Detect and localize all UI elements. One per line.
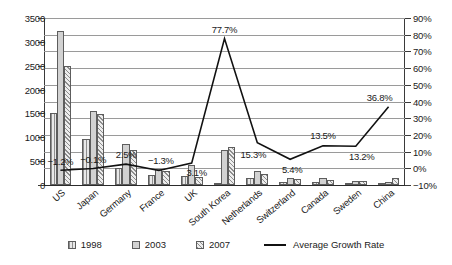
left-axis-tick-mark [38, 113, 44, 114]
bar-2003-france[interactable] [155, 169, 162, 185]
bar-2007-japan[interactable] [97, 114, 104, 185]
data-label-japan: −0.1% [80, 154, 106, 165]
bar-1998-germany[interactable] [115, 168, 122, 185]
data-label-canada: 13.5% [310, 129, 335, 140]
legend-label: Average Growth Rate [293, 239, 384, 250]
category-label-france: France [137, 187, 166, 214]
right-axis-tick-mark [405, 118, 411, 119]
right-axis-tick-label: −10% [413, 180, 437, 191]
right-axis-tick-mark [405, 152, 411, 153]
bar-group [241, 18, 274, 185]
left-axis-tick-mark [38, 137, 44, 138]
left-axis-tick-mark [38, 18, 44, 19]
data-label-sweden: 13.2% [349, 151, 374, 162]
legend: 199820032007Average Growth Rate [0, 239, 452, 250]
combo-chart: −1.2%−0.1%2.5%−1.3%3.1%77.7%15.3%5.4%13.… [0, 0, 452, 265]
category-label-uk: UK [182, 187, 199, 204]
category-label-us: US [51, 187, 68, 204]
right-axis-tick-mark [405, 35, 411, 36]
legend-item-2007[interactable]: 2007 [196, 239, 230, 250]
right-axis-tick-label: 60% [413, 63, 431, 74]
right-axis-tick-mark [405, 85, 411, 86]
legend-label: 1998 [81, 239, 102, 250]
right-axis-tick-mark [405, 168, 411, 169]
bar-2007-uk[interactable] [195, 177, 202, 185]
data-label-switzerland: 5.4% [282, 164, 302, 175]
category-axis: USJapanGermanyFranceUKSouth KoreaNetherl… [44, 185, 405, 237]
category-label-china: China [370, 187, 395, 211]
legend-swatch-2003 [132, 241, 140, 249]
right-axis-tick-label: 50% [413, 79, 431, 90]
bar-group [274, 18, 307, 185]
legend-item-1998[interactable]: 1998 [68, 239, 102, 250]
legend-line-marker [264, 244, 286, 246]
bar-group [208, 18, 241, 185]
category-label-germany: Germany [97, 187, 133, 220]
right-axis-tick-label: 40% [413, 96, 431, 107]
data-label-germany: 2.5% [116, 149, 136, 160]
legend-item-2003[interactable]: 2003 [132, 239, 166, 250]
bar-2007-france[interactable] [162, 171, 169, 185]
plot-area: −1.2%−0.1%2.5%−1.3%3.1%77.7%15.3%5.4%13.… [44, 18, 405, 185]
right-axis-tick-mark [405, 51, 411, 52]
data-label-us: −1.2% [48, 156, 74, 167]
legend-swatch-1998 [68, 241, 76, 249]
right-axis-tick-mark [405, 18, 411, 19]
left-axis-tick-mark [38, 66, 44, 67]
right-axis-tick-label: 30% [413, 113, 431, 124]
bar-group [175, 18, 208, 185]
data-label-france: −1.3% [148, 155, 174, 166]
left-axis-tick-mark [38, 161, 44, 162]
legend-swatch-2007 [196, 241, 204, 249]
bar-group [110, 18, 143, 185]
right-axis-tick-label: 80% [413, 29, 431, 40]
right-axis-tick-label: 90% [413, 13, 431, 24]
bar-2003-south-korea[interactable] [221, 150, 228, 185]
right-axis-tick-label: 10% [413, 146, 431, 157]
legend-label: 2003 [145, 239, 166, 250]
category-label-sweden: Sweden [330, 187, 362, 217]
bar-2003-switzerland[interactable] [287, 178, 294, 185]
right-axis-tick-label: 0% [413, 163, 426, 174]
bar-1998-us[interactable] [50, 113, 57, 185]
legend-label: 2007 [209, 239, 230, 250]
bar-2003-japan[interactable] [90, 111, 97, 185]
data-label-south-korea: 77.7% [212, 23, 237, 34]
right-axis-tick-mark [405, 68, 411, 69]
right-axis-tick-label: 20% [413, 129, 431, 140]
bar-2007-netherlands[interactable] [261, 174, 268, 185]
right-axis-tick-mark [405, 102, 411, 103]
category-label-canada: Canada [298, 187, 330, 216]
data-label-netherlands: 15.3% [241, 148, 266, 159]
left-axis-tick-mark [38, 42, 44, 43]
bar-2007-china[interactable] [392, 178, 399, 185]
bar-2007-south-korea[interactable] [228, 147, 235, 185]
legend-item-average-growth-rate[interactable]: Average Growth Rate [264, 239, 384, 250]
bar-2003-netherlands[interactable] [254, 171, 261, 185]
right-axis-tick-mark [405, 185, 411, 186]
bar-2003-canada[interactable] [319, 178, 326, 185]
category-label-japan: Japan [74, 187, 100, 211]
bar-1998-france[interactable] [148, 175, 155, 185]
left-axis-tick-mark [38, 90, 44, 91]
bar-group [307, 18, 340, 185]
bar-1998-netherlands[interactable] [246, 178, 253, 185]
right-axis-tick-label: 70% [413, 46, 431, 57]
data-label-uk: 3.1% [186, 167, 206, 178]
bar-2007-us[interactable] [64, 66, 71, 185]
right-axis-tick-mark [405, 135, 411, 136]
data-label-china: 36.8% [367, 91, 392, 102]
